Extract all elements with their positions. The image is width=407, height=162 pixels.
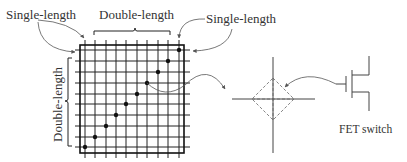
top-brace	[94, 28, 170, 35]
single-length-right-arrow-left	[193, 29, 232, 51]
left-brace	[65, 58, 72, 146]
single-length-left-arrow-right	[38, 22, 75, 52]
switch-box	[232, 57, 315, 153]
interconnect-grid	[75, 40, 190, 158]
switch-points	[83, 48, 181, 149]
single-length-right-label: Single-length	[206, 11, 277, 26]
fet-switch-symbol	[336, 56, 369, 111]
single-length-left-arrow-down	[38, 20, 84, 38]
fet-arrow	[285, 77, 336, 87]
interconnect-diagram: Single-length Double-length Single-lengt…	[0, 0, 407, 162]
single-length-left-label: Single-length	[6, 7, 77, 22]
fet-switch-label: FET switch	[339, 123, 392, 135]
single-length-right-arrow-down	[179, 19, 205, 38]
double-length-left-label: Double-length	[50, 66, 65, 142]
double-length-top-label: Double-length	[99, 7, 175, 22]
